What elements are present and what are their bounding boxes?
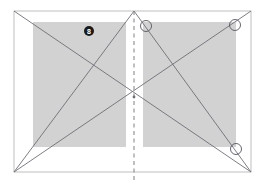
step-marker-disc [84,26,94,36]
fold-diagram-svg: 8 [0,0,265,185]
diagram-canvas: 8 [0,0,265,185]
right-shaded-panel [143,22,236,147]
step-marker: 8 [84,26,94,36]
center-point [133,96,136,99]
step-markers-group: 8 [84,26,94,36]
